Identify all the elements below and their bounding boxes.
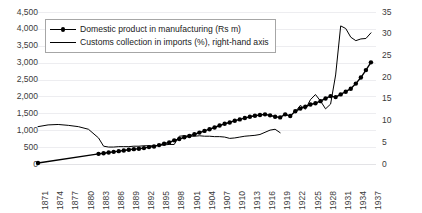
data-point-marker: [258, 113, 262, 117]
series-line: [38, 62, 371, 163]
x-tick-label: 1919: [283, 191, 292, 210]
chart-legend: Domestic product in manufacturing (Rs m)…: [45, 19, 276, 53]
data-point-marker: [263, 112, 267, 116]
data-point-marker: [283, 112, 287, 116]
data-point-marker: [359, 75, 363, 79]
x-tick-label: 1871: [41, 191, 50, 210]
data-point-marker: [369, 60, 373, 64]
data-point-marker: [273, 115, 277, 119]
x-tick-label: 1925: [314, 191, 323, 210]
x-tick-label: 1928: [329, 191, 338, 210]
x-tick-label: 1904: [208, 191, 217, 210]
x-tick-label: 1880: [87, 191, 96, 210]
x-tick-label: 1877: [71, 191, 80, 210]
data-point-marker: [222, 122, 226, 126]
legend-line-marker-icon: [50, 25, 76, 35]
data-point-marker: [207, 127, 211, 131]
series-line: [295, 26, 371, 112]
x-tick-label: 1883: [102, 191, 111, 210]
data-point-marker: [117, 149, 121, 153]
chart-container: 05001,0001,5002,0002,5003,0003,5004,0004…: [0, 0, 422, 213]
data-point-marker: [323, 96, 327, 100]
legend-line-icon: [50, 38, 76, 48]
x-tick-label: 1874: [56, 191, 65, 210]
data-point-marker: [212, 125, 216, 129]
x-tick-label: 1922: [298, 191, 307, 210]
x-tick-label: 1937: [374, 191, 383, 210]
data-point-marker: [364, 68, 368, 72]
x-tick-label: 1889: [132, 191, 141, 210]
data-point-marker: [228, 120, 232, 124]
x-tick-label: 1892: [147, 191, 156, 210]
data-point-marker: [101, 151, 105, 155]
data-point-marker: [132, 147, 136, 151]
x-tick-label: 1916: [268, 191, 277, 210]
data-point-marker: [122, 148, 126, 152]
data-point-marker: [248, 115, 252, 119]
data-point-marker: [344, 90, 348, 94]
data-point-marker: [202, 129, 206, 133]
x-tick-label: 1898: [177, 191, 186, 210]
x-tick-label: 1934: [359, 191, 368, 210]
data-point-marker: [268, 113, 272, 117]
data-point-marker: [142, 146, 146, 150]
data-point-marker: [349, 86, 353, 90]
data-point-marker: [217, 123, 221, 127]
data-point-marker: [253, 114, 257, 118]
x-tick-label: 1907: [223, 191, 232, 210]
data-point-marker: [233, 119, 237, 123]
data-point-marker: [313, 101, 317, 105]
data-point-marker: [197, 130, 201, 134]
data-point-marker: [278, 115, 282, 119]
legend-label-customs-collection: Customs collection in imports (%), right…: [80, 38, 269, 47]
x-tick-label: 1931: [344, 191, 353, 210]
data-point-marker: [354, 81, 358, 85]
data-point-marker: [167, 140, 171, 144]
legend-item-customs-collection: Customs collection in imports (%), right…: [50, 36, 269, 49]
data-point-marker: [96, 152, 100, 156]
x-tick-label: 1895: [162, 191, 171, 210]
data-point-marker: [333, 95, 337, 99]
x-tick-label: 1910: [238, 191, 247, 210]
data-point-marker: [111, 150, 115, 154]
x-tick-label: 1901: [193, 191, 202, 210]
data-point-marker: [127, 148, 131, 152]
x-tick-label: 1886: [117, 191, 126, 210]
data-point-marker: [238, 117, 242, 121]
legend-label-domestic-product: Domestic product in manufacturing (Rs m): [80, 25, 241, 34]
data-point-marker: [243, 116, 247, 120]
data-point-marker: [338, 92, 342, 96]
data-point-marker: [288, 114, 292, 118]
data-point-marker: [36, 161, 40, 165]
data-point-marker: [137, 147, 141, 151]
legend-item-domestic-product: Domestic product in manufacturing (Rs m): [50, 23, 269, 36]
data-point-marker: [106, 150, 110, 154]
series-domestic-product: [36, 60, 373, 165]
data-point-marker: [152, 144, 156, 148]
x-tick-label: 1913: [253, 191, 262, 210]
x-axis: 1871187418771880188318861889189218951898…: [38, 166, 376, 213]
